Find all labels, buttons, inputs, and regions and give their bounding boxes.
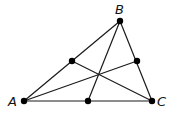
vertex-b-label: B [115, 2, 124, 17]
vertex-c-label: C [157, 94, 167, 109]
midpoint-ab [69, 58, 75, 64]
triangle-diagram: A B C [0, 0, 178, 114]
vertex-a-label: A [7, 94, 17, 109]
midpoint-ac [85, 98, 91, 104]
midpoint-bc [134, 58, 140, 64]
median-from-a [24, 61, 137, 101]
vertex-c-point [149, 98, 155, 104]
vertex-b-point [117, 18, 123, 24]
vertex-a-point [21, 98, 27, 104]
median-from-c [72, 61, 152, 101]
median-from-b [88, 21, 120, 101]
